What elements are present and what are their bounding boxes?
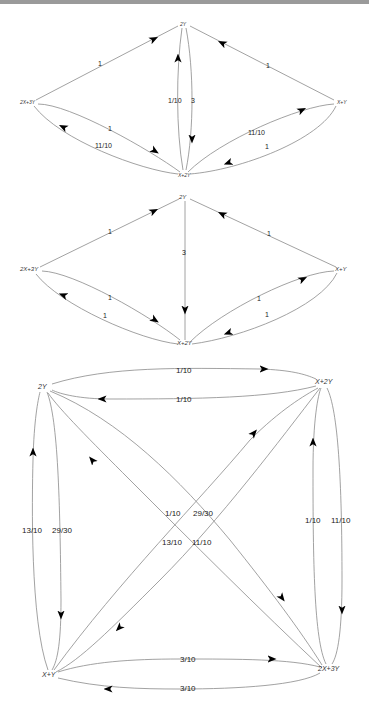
edge-label: 11/10 [192, 538, 212, 547]
edge-g3-2y-to-x2y: 1/10 [52, 366, 316, 384]
graph-3: 1/10 1/10 13/10 29/30 1/10 [22, 366, 351, 693]
edge-label: 3 [182, 249, 186, 256]
edge-g2-2x3y-to-x2y: 1 [42, 271, 180, 340]
edge-label: 29/30 [52, 526, 73, 535]
edge-label: 1/10 [305, 516, 321, 525]
edge-g1-2x3y-to-2y: 1 [36, 26, 178, 100]
edge-label: 1 [257, 295, 261, 302]
edge-label: 1 [266, 62, 270, 69]
edge-g1-x2y-to-2y: 1/10 [168, 28, 183, 170]
edge-g3-xy-to-x2y: 1/10 [54, 388, 318, 670]
edge-g1-xy-to-x2y: 1 [190, 106, 336, 174]
node-x-y: X+Y [41, 671, 57, 678]
edge-g2-x2y-to-2x3y: 1 [36, 274, 178, 344]
node-2x-3y: 2X+3Y [317, 665, 341, 672]
node-2y: 2Y [179, 21, 187, 27]
graph-2: 1 1 3 1 1 1 1 [19, 194, 348, 346]
node-2x-3y: 2X+3Y [19, 99, 36, 105]
edge-label: 1 [108, 228, 112, 235]
edge-label: 11/10 [95, 142, 112, 149]
node-2y: 2Y [178, 194, 187, 200]
edge-label: 1/10 [168, 97, 182, 104]
edge-label: 1 [103, 312, 107, 319]
edge-g2-xy-to-2y: 1 [190, 199, 336, 267]
edge-g3-2y-to-xy: 29/30 [47, 392, 73, 670]
edge-label: 1 [267, 230, 271, 237]
edge-g2-2x3y-to-2y: 1 [40, 199, 179, 267]
edge-g3-x2y-to-2x3y: 11/10 [327, 388, 351, 664]
edge-g1-xy-to-2y: 1 [190, 26, 334, 100]
edge-label: 1 [98, 60, 102, 67]
edge-label: 13/10 [22, 526, 43, 535]
edge-g1-2x3y-to-x2y: 1 [38, 104, 180, 172]
edge-g3-2x3y-to-x2y: 1/10 [305, 388, 326, 664]
edge-label: 11/10 [331, 516, 351, 525]
edge-g2-xy-to-x2y: 1 [192, 273, 337, 344]
edge-label: 1 [108, 125, 112, 132]
edge-g1-x2y-to-xy: 11/10 [188, 104, 334, 172]
node-2y: 2Y [37, 383, 48, 390]
edge-label: 11/10 [248, 129, 265, 136]
edge-g1-2y-to-x2y: 3 [186, 28, 195, 170]
edge-g3-x2y-to-xy: 11/10 [56, 388, 320, 672]
node-x-y: X+Y [336, 99, 347, 105]
graph-1: 1 1 1/10 3 1 11/10 [19, 21, 347, 178]
edge-label: 3/10 [180, 684, 196, 693]
edge-label: 1/10 [176, 395, 192, 404]
graph-canvas: 1 1 1/10 3 1 11/10 [0, 0, 369, 709]
edge-label: 1/10 [165, 509, 181, 518]
edge-label: 1/10 [176, 366, 192, 375]
edge-label: 1 [108, 294, 112, 301]
edge-g3-2x3y-to-2y: 13/10 [48, 393, 322, 668]
node-x-2y: X+2Y [177, 172, 191, 178]
edge-g3-x2y-to-2y: 1/10 [52, 386, 316, 404]
edge-g2-x2y-to-xy: 1 [190, 271, 334, 342]
edge-label: 3 [191, 97, 195, 104]
node-2x-3y: 2X+3Y [19, 266, 39, 272]
edge-g3-xy-to-2x3y: 3/10 [58, 655, 320, 672]
node-x-2y: X+2Y [176, 340, 193, 346]
edge-label: 1 [265, 143, 269, 150]
edge-label: 13/10 [162, 538, 183, 547]
edge-label: 3/10 [180, 655, 196, 664]
edge-g3-2x3y-to-xy: 3/10 [58, 673, 320, 693]
edge-label: 29/30 [193, 509, 214, 518]
node-x-2y: X+2Y [314, 378, 334, 385]
edge-g3-xy-to-2y: 13/10 [22, 392, 48, 670]
edge-g2-2y-to-x2y: 3 [182, 201, 186, 340]
node-x-y: X+Y [334, 266, 348, 272]
edge-g1-x2y-to-2x3y: 11/10 [34, 106, 178, 174]
edge-label: 1 [265, 311, 269, 318]
edge-g3-2y-to-2x3y: 29/30 [50, 391, 322, 665]
